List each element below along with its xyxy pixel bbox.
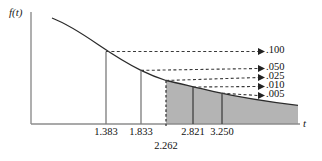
- tick-label-2262: 2.262: [154, 140, 178, 151]
- tick-label-2821: 2.821: [181, 126, 205, 137]
- tail-area-label-100: .100: [266, 44, 284, 55]
- arrowhead-005-icon: [258, 92, 265, 99]
- tick-label-1383: 1.383: [94, 126, 118, 137]
- tick-label-1833: 1.833: [129, 126, 153, 137]
- leader-line-010: [193, 87, 258, 88]
- tick-label-3250: 3.250: [210, 126, 234, 137]
- arrowhead-010-icon: [258, 83, 265, 90]
- tail-area-label-005: .005: [266, 88, 284, 99]
- leader-line-025: [166, 78, 258, 81]
- arrowhead-100-icon: [258, 48, 265, 55]
- x-axis-label: t: [303, 117, 306, 129]
- t-distribution-figure: f(t) t 1.383 1.833 2.262 2.821 3.250 .10…: [0, 0, 322, 161]
- arrowhead-025-icon: [258, 74, 265, 81]
- arrowhead-050-icon: [258, 65, 265, 72]
- leader-line-050: [141, 69, 258, 71]
- y-axis-label: f(t): [9, 6, 22, 18]
